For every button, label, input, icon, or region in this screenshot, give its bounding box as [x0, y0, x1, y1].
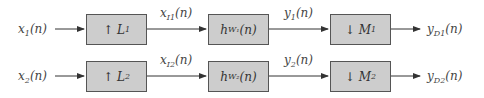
upsampler-block-1: ↑ L1 — [86, 14, 147, 45]
edge-label-y2: y2(n) — [284, 53, 313, 72]
filter-block-1: hW₁(n) — [208, 14, 269, 45]
input-x1-label: x1(n) — [18, 22, 47, 41]
input-x2-label: x2(n) — [18, 69, 47, 88]
output-yD1-label: yD1(n) — [427, 22, 462, 41]
upsampler-block-2: ↑ L2 — [86, 61, 147, 92]
edge-label-y1: y1(n) — [284, 6, 313, 25]
downsampler-block-1: ↓ M1 — [330, 14, 391, 45]
edge-label-xI2: xI2(n) — [160, 53, 192, 72]
edge-label-xI1: xI1(n) — [160, 6, 192, 25]
output-yD2-label: yD2(n) — [427, 69, 462, 88]
downsampler-block-2: ↓ M2 — [330, 61, 391, 92]
filter-block-2: hW₂(n) — [208, 61, 269, 92]
